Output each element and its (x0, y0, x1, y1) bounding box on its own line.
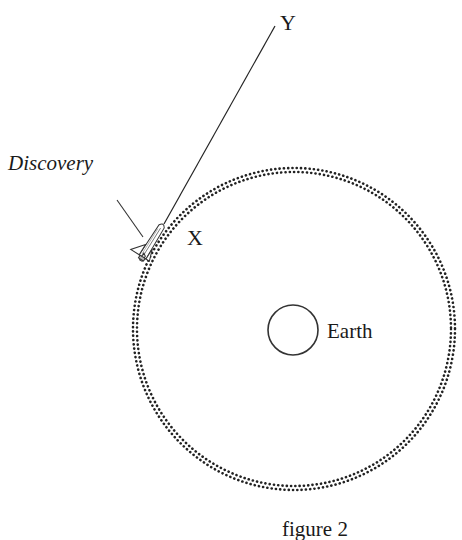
space-shuttle-icon (129, 217, 170, 265)
orbit-diagram: Earth Y X Discovery figure 2 (0, 0, 462, 540)
earth-label: Earth (327, 319, 373, 343)
earth-circle (268, 305, 318, 355)
figure-caption: figure 2 (282, 517, 348, 540)
point-y-label: Y (280, 10, 296, 35)
discovery-leader-line (117, 200, 143, 237)
tangent-line-xy (164, 26, 275, 224)
discovery-label: Discovery (7, 151, 94, 175)
point-x-label: X (187, 225, 203, 250)
